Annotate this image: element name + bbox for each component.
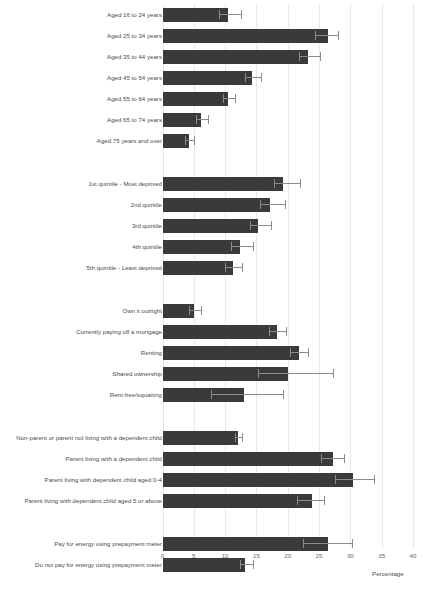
bar <box>163 473 353 487</box>
category-label: Aged 65 to 74 years <box>0 116 162 124</box>
error-bar-line <box>219 14 240 15</box>
error-bar-cap-high <box>283 390 284 399</box>
x-tick-label: 40 <box>410 552 417 559</box>
bar-row: Parent living with a dependent child <box>0 452 438 466</box>
category-label: Aged 75 years and over <box>0 137 162 145</box>
error-bar-cap-high <box>235 94 236 103</box>
category-label: 5th quintile - Least deprived <box>0 264 162 272</box>
bar-row: 2nd quintile <box>0 198 438 212</box>
error-bar-cap-low <box>219 10 220 19</box>
bar <box>163 219 259 233</box>
error-bar-cap-low <box>260 200 261 209</box>
error-bar-line <box>290 352 308 353</box>
gridline-15 <box>256 4 257 548</box>
error-bar-cap-low <box>303 539 304 548</box>
error-bar-line <box>231 246 253 247</box>
bar-row: 5th quintile - Least deprived <box>0 261 438 275</box>
bar <box>163 240 241 254</box>
error-bar-line <box>260 204 284 205</box>
bar <box>163 8 228 22</box>
error-bar-cap-high <box>324 496 325 505</box>
category-label: Parent living with dependent child aged … <box>0 476 162 484</box>
bar-row: Parent living with dependent child aged … <box>0 473 438 487</box>
error-bar-cap-high <box>300 179 301 188</box>
error-bar-line <box>185 140 194 141</box>
error-bar-cap-high <box>194 136 195 145</box>
x-tick-label: 10 <box>222 552 229 559</box>
error-bar-cap-high <box>253 242 254 251</box>
bar-row: Rent-free/squatting <box>0 388 438 402</box>
error-bar-cap-low <box>223 94 224 103</box>
error-bar-cap-low <box>290 348 291 357</box>
error-bar-line <box>299 56 320 57</box>
bar <box>163 494 313 508</box>
bar <box>163 29 329 43</box>
x-axis-title: Percentage <box>372 570 404 577</box>
bar-row: Currently paying off a mortgage <box>0 325 438 339</box>
error-bar-cap-low <box>225 263 226 272</box>
bar-row: Aged 55 to 64 years <box>0 92 438 106</box>
bar <box>163 50 309 64</box>
x-tick-label: 30 <box>347 552 354 559</box>
bar-row: Parent living with dependent child aged … <box>0 494 438 508</box>
bar-row: 3rd quintile <box>0 219 438 233</box>
category-label: Renting <box>0 349 162 357</box>
error-bar-cap-high <box>352 539 353 548</box>
bar-row: Aged 25 to 34 years <box>0 29 438 43</box>
error-bar-cap-high <box>242 433 243 442</box>
error-bar-cap-high <box>242 263 243 272</box>
error-bar-line <box>258 373 333 374</box>
bar <box>163 92 229 106</box>
x-tick-label: 5 <box>192 552 195 559</box>
category-label: Parent living with a dependent child <box>0 455 162 463</box>
category-label: Pay for energy using prepayment meter <box>0 540 162 548</box>
bar-row: Own it outright <box>0 304 438 318</box>
error-bar-cap-high <box>344 454 345 463</box>
error-bar-line <box>223 98 236 99</box>
bar-row: Aged 45 to 54 years <box>0 71 438 85</box>
bar <box>163 71 253 85</box>
error-bar-cap-high <box>271 221 272 230</box>
x-tick-label: 15 <box>253 552 260 559</box>
category-label: Own it outright <box>0 307 162 315</box>
gridline-35 <box>382 4 383 548</box>
gridline-40 <box>413 4 414 548</box>
error-bar-cap-high <box>320 52 321 61</box>
error-bar-cap-low <box>235 433 236 442</box>
bar-row: Aged 35 to 44 years <box>0 50 438 64</box>
category-label: 4th quintile <box>0 243 162 251</box>
error-bar-line <box>321 458 344 459</box>
error-bar-cap-low <box>269 327 270 336</box>
error-bar-cap-high <box>201 306 202 315</box>
gridline-30 <box>350 4 351 548</box>
bar <box>163 261 234 275</box>
bar <box>163 198 271 212</box>
bar <box>163 177 284 191</box>
error-bar-line <box>303 543 352 544</box>
error-bar-cap-low <box>185 136 186 145</box>
gridline-20 <box>288 4 289 548</box>
category-label: Aged 45 to 54 years <box>0 74 162 82</box>
category-label: Parent living with dependent child aged … <box>0 497 162 505</box>
error-bar-cap-low <box>245 73 246 82</box>
error-bar-cap-high <box>208 115 209 124</box>
bar-row: Renting <box>0 346 438 360</box>
bar-row: Shared ownership <box>0 367 438 381</box>
error-bar-cap-high <box>286 327 287 336</box>
error-bar-cap-low <box>258 369 259 378</box>
category-label: Aged 25 to 34 years <box>0 32 162 40</box>
category-label: 1st quintile - Most deprived <box>0 180 162 188</box>
error-bar-line <box>297 500 324 501</box>
error-bar-cap-low <box>211 390 212 399</box>
x-axis: Percentage 0510152025303540 <box>0 548 438 592</box>
category-label: Non-parent or parent not living with a d… <box>0 434 162 442</box>
plot-area: Aged 16 to 24 yearsAged 25 to 34 yearsAg… <box>0 0 438 548</box>
error-bar-cap-low <box>315 31 316 40</box>
bar <box>163 325 278 339</box>
x-tick-label: 20 <box>284 552 291 559</box>
category-label: Rent-free/squatting <box>0 391 162 399</box>
error-bar-cap-low <box>196 115 197 124</box>
error-bar-cap-high <box>261 73 262 82</box>
error-bar-cap-high <box>333 369 334 378</box>
bar-row: Aged 65 to 74 years <box>0 113 438 127</box>
